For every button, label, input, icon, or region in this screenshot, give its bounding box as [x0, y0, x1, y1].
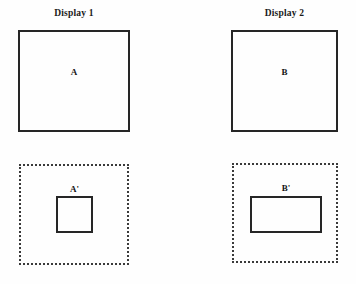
panel-title-display-1: Display 1	[18, 8, 130, 18]
display-1-top-square	[18, 30, 130, 132]
figure-canvas: Display 1 Display 2 A B A' B'	[0, 0, 356, 284]
display-1-bottom-inner-square	[56, 196, 93, 233]
display-1-top-square-label: A	[18, 67, 130, 77]
display-2-top-square	[231, 30, 338, 132]
display-1-bottom-inner-square-label: A'	[56, 184, 93, 194]
display-2-bottom-inner-rectangle	[250, 196, 322, 233]
display-2-bottom-inner-rectangle-label: B'	[250, 183, 322, 193]
panel-title-display-2: Display 2	[231, 8, 338, 18]
display-2-top-square-label: B	[231, 67, 338, 77]
